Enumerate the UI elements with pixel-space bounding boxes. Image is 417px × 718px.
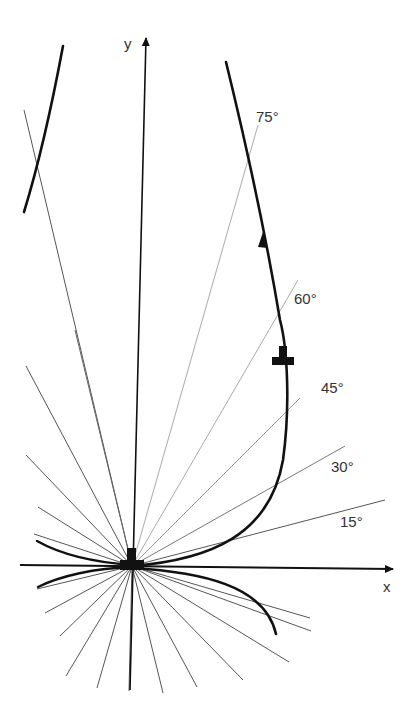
ray-150deg [38, 507, 132, 566]
ray-345b-deg [132, 566, 310, 618]
x-axis [20, 565, 393, 569]
x-axis-label: x [383, 578, 391, 595]
angle-label-60: 60° [294, 290, 317, 307]
ray-285deg [132, 566, 163, 693]
phase-plane-diagram: y x 75° 60° 45° 30° 15° [0, 0, 417, 718]
trajectories [24, 46, 287, 634]
upper-left-trajectory [24, 46, 63, 212]
lower-right-trajectory [132, 568, 276, 634]
ray-60deg [132, 280, 298, 566]
ray-45deg [132, 398, 300, 566]
ray-upper-mid [75, 330, 132, 566]
angle-label-15: 15° [340, 513, 363, 530]
angle-label-75: 75° [256, 108, 279, 125]
ray-210deg [45, 566, 132, 613]
y-axis-label: y [124, 35, 132, 52]
radial-lines [24, 110, 385, 693]
trajectory-marker [272, 346, 294, 365]
ray-315deg [132, 566, 243, 680]
angle-label-45: 45° [321, 379, 344, 396]
ray-75deg [132, 125, 258, 566]
ray-120deg [26, 366, 132, 566]
ray-15deg [132, 500, 385, 566]
angle-label-30: 30° [331, 458, 354, 475]
ray-195deg [37, 566, 132, 589]
ray-300deg [132, 566, 197, 687]
main-trajectory [132, 62, 287, 566]
ray-255deg [97, 566, 132, 688]
ray-30deg [132, 446, 345, 566]
ray-135deg [26, 455, 132, 566]
axes [20, 38, 393, 690]
